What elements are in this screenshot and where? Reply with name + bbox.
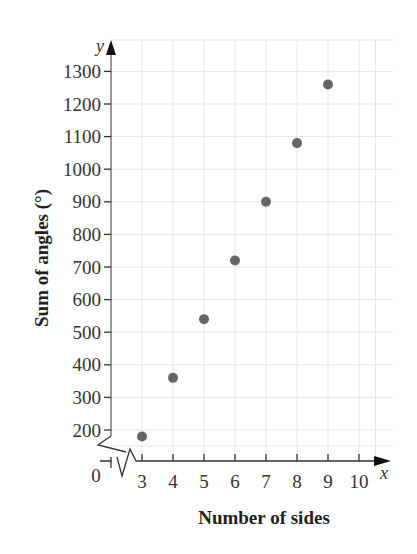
x-tick-label: 6 — [230, 471, 240, 492]
y-tick-label: 1300 — [63, 61, 101, 82]
y-axis-variable: y — [94, 36, 104, 56]
x-axis-ticks: 345678910 — [137, 454, 368, 492]
y-axis-ticks: 2003004005006007008009001000110012001300 — [63, 61, 111, 441]
data-point — [199, 314, 209, 324]
data-point — [323, 79, 333, 89]
y-axis-arrow-icon — [106, 40, 116, 55]
y-tick-label: 200 — [73, 420, 102, 441]
y-axis-title: Sum of angles (°) — [31, 189, 53, 327]
grid — [111, 40, 393, 461]
x-tick-label: 9 — [323, 471, 333, 492]
data-point — [261, 197, 271, 207]
x-axis-title: Number of sides — [198, 507, 330, 528]
y-tick-label: 800 — [73, 224, 102, 245]
y-tick-label: 1200 — [63, 94, 101, 115]
origin-label: 0 — [91, 465, 101, 486]
x-tick-label: 3 — [137, 471, 147, 492]
y-tick-label: 600 — [73, 289, 102, 310]
x-tick-label: 4 — [168, 471, 178, 492]
x-axis-variable: x — [379, 463, 388, 483]
y-tick-label: 400 — [73, 354, 102, 375]
y-tick-label: 300 — [73, 387, 102, 408]
y-tick-label: 900 — [73, 191, 102, 212]
y-tick-label: 700 — [73, 257, 102, 278]
data-point — [137, 432, 147, 442]
x-axis-line-start — [100, 457, 111, 461]
y-axis-break-icon — [98, 436, 126, 452]
y-tick-label: 1100 — [64, 126, 101, 147]
data-point — [168, 373, 178, 383]
y-tick-label: 500 — [73, 322, 102, 343]
x-tick-label: 8 — [292, 471, 302, 492]
data-point — [230, 255, 240, 265]
scatter-chart: 2003004005006007008009001000110012001300… — [0, 0, 417, 554]
x-tick-label: 10 — [350, 471, 369, 492]
data-point — [292, 138, 302, 148]
x-tick-label: 5 — [199, 471, 209, 492]
x-axis-line — [117, 449, 380, 476]
x-tick-label: 7 — [261, 471, 271, 492]
y-tick-label: 1000 — [63, 159, 101, 180]
